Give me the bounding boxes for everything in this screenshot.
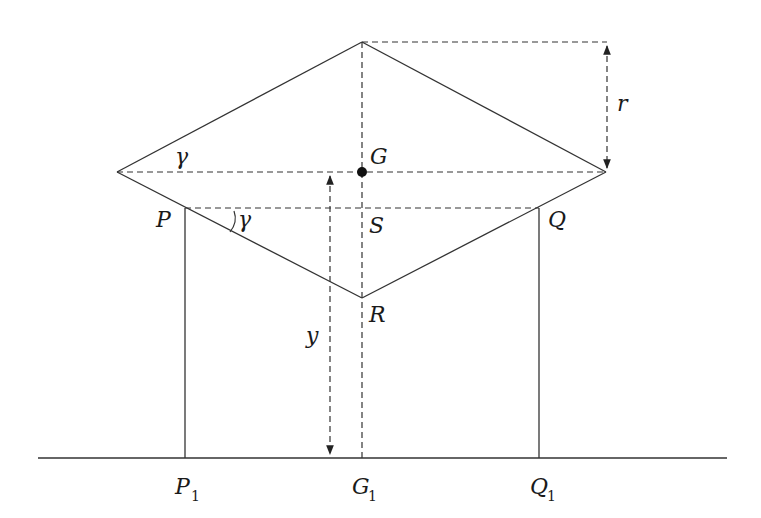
label-y: y bbox=[305, 323, 319, 348]
edge-top-right bbox=[362, 42, 606, 172]
label-P: P bbox=[155, 207, 172, 232]
label-gamma-top: γ bbox=[175, 144, 189, 169]
label-G1: G bbox=[352, 474, 370, 499]
label-r: r bbox=[617, 91, 629, 116]
geometry-diagram: γ G r P γ S Q R y P 1 G 1 Q 1 bbox=[0, 0, 761, 518]
edge-left-R bbox=[117, 172, 362, 298]
label-P1-subscript: 1 bbox=[191, 488, 200, 504]
label-Q1: Q bbox=[530, 474, 548, 499]
label-R: R bbox=[368, 302, 386, 327]
edge-left-top bbox=[117, 42, 362, 172]
label-S: S bbox=[369, 213, 384, 238]
edge-R-right bbox=[362, 172, 606, 298]
label-G: G bbox=[370, 144, 388, 169]
label-Q1-subscript: 1 bbox=[547, 488, 556, 504]
label-Q: Q bbox=[548, 207, 566, 232]
label-P1: P bbox=[174, 474, 191, 499]
center-of-gravity-dot bbox=[357, 167, 367, 177]
angle-arc-P bbox=[230, 211, 235, 232]
label-G1-subscript: 1 bbox=[368, 488, 377, 504]
label-gamma-P: γ bbox=[238, 207, 252, 232]
